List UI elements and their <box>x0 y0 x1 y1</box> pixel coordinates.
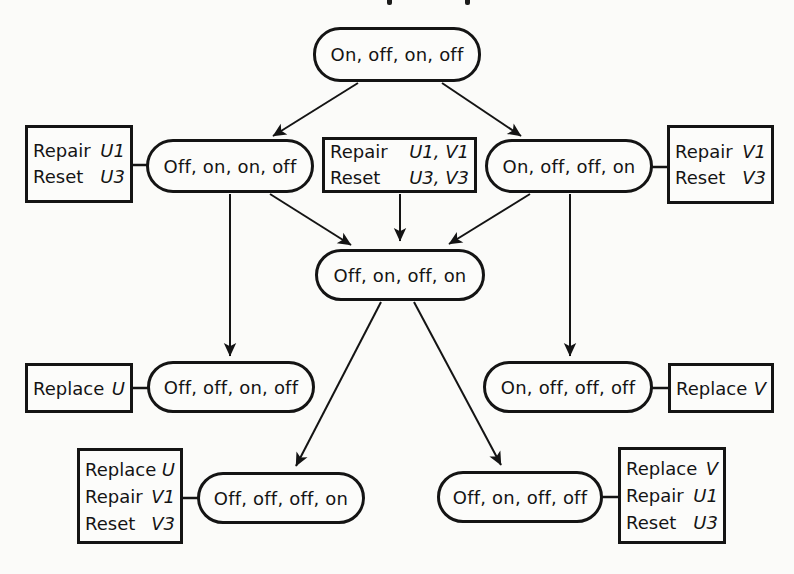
edge-top-to-midleft <box>273 83 358 136</box>
action-vars: U3, V3 <box>405 165 469 191</box>
action-line: Reset U3, V3 <box>330 165 469 191</box>
action-vars: U1 <box>689 482 718 509</box>
action-box-replace-v-repair-u1-reset-u3: Replace V Repair U1 Reset U3 <box>618 447 726 544</box>
action-vars: U <box>108 375 125 402</box>
action-line: Repair V1 <box>675 139 766 165</box>
state-label: Off, on, on, off <box>164 156 297 177</box>
action-word: Reset <box>330 165 380 191</box>
state-off-on-off-on: Off, on, off, on <box>315 249 485 301</box>
state-on-off-off-on: On, off, off, on <box>485 139 653 193</box>
action-word: Repair <box>675 139 733 165</box>
action-vars: U <box>158 456 175 483</box>
action-word: Replace <box>33 375 104 402</box>
state-label: Off, off, off, on <box>214 488 348 509</box>
edge-top-to-midright <box>442 83 521 136</box>
state-off-off-on-off: Off, off, on, off <box>147 361 315 413</box>
action-box-replace-u: Replace U <box>25 363 133 413</box>
edge-midright-to-center <box>449 194 530 244</box>
state-label: On, off, off, on <box>503 156 636 177</box>
action-line: Reset U3 <box>33 164 125 190</box>
action-box-replace-v: Replace V <box>668 363 774 413</box>
action-line: Replace V <box>676 375 766 402</box>
action-line: Reset U3 <box>626 509 718 536</box>
action-vars: U1, V1 <box>405 139 469 165</box>
state-on-off-on-off: On, off, on, off <box>313 27 481 82</box>
state-label: Off, on, off, on <box>334 265 467 286</box>
action-word: Replace <box>676 375 747 402</box>
state-label: Off, on, off, off <box>453 487 587 508</box>
state-label: On, off, off, off <box>501 377 635 398</box>
state-off-on-off-off: Off, on, off, off <box>437 471 603 523</box>
action-word: Repair <box>85 483 143 510</box>
action-line: Replace V <box>626 455 718 482</box>
action-line: Reset V3 <box>675 165 766 191</box>
action-line: Repair V1 <box>85 483 175 510</box>
action-line: Repair U1 <box>33 138 125 164</box>
action-word: Repair <box>626 482 684 509</box>
state-transition-diagram: On, off, on, off Off, on, on, off On, of… <box>0 0 794 574</box>
action-box-replace-u-repair-v1-reset-v3: Replace U Repair V1 Reset V3 <box>77 448 183 544</box>
action-word: Reset <box>675 165 725 191</box>
action-vars: V <box>702 455 718 482</box>
edge-midleft-to-center <box>270 194 351 245</box>
state-on-off-off-off: On, off, off, off <box>483 361 653 413</box>
action-box-repair-u1v1-reset-u3v3: Repair U1, V1 Reset U3, V3 <box>322 137 477 193</box>
action-box-repair-u1-reset-u3: Repair U1 Reset U3 <box>25 125 133 203</box>
action-vars: V3 <box>147 510 175 537</box>
action-vars: V1 <box>147 483 175 510</box>
action-word: Repair <box>330 139 388 165</box>
action-word: Replace <box>85 456 156 483</box>
action-word: Repair <box>33 138 91 164</box>
action-vars: V <box>750 375 766 402</box>
action-line: Repair U1, V1 <box>330 139 469 165</box>
action-line: Repair U1 <box>626 482 718 509</box>
action-line: Reset V3 <box>85 510 175 537</box>
action-line: Replace U <box>85 456 175 483</box>
state-label: On, off, on, off <box>331 44 464 65</box>
state-label: Off, off, on, off <box>164 377 298 398</box>
action-vars: V3 <box>738 165 766 191</box>
action-word: Reset <box>33 164 83 190</box>
action-box-repair-v1-reset-v3: Repair V1 Reset V3 <box>667 125 774 204</box>
action-word: Reset <box>626 509 676 536</box>
action-vars: V1 <box>738 139 766 165</box>
action-vars: U3 <box>689 509 718 536</box>
action-line: Replace U <box>33 375 125 402</box>
action-vars: U1 <box>96 138 125 164</box>
state-off-off-off-on: Off, off, off, on <box>197 472 365 524</box>
state-off-on-on-off: Off, on, on, off <box>146 139 314 193</box>
action-word: Replace <box>626 455 697 482</box>
action-vars: U3 <box>96 164 125 190</box>
action-word: Reset <box>85 510 135 537</box>
